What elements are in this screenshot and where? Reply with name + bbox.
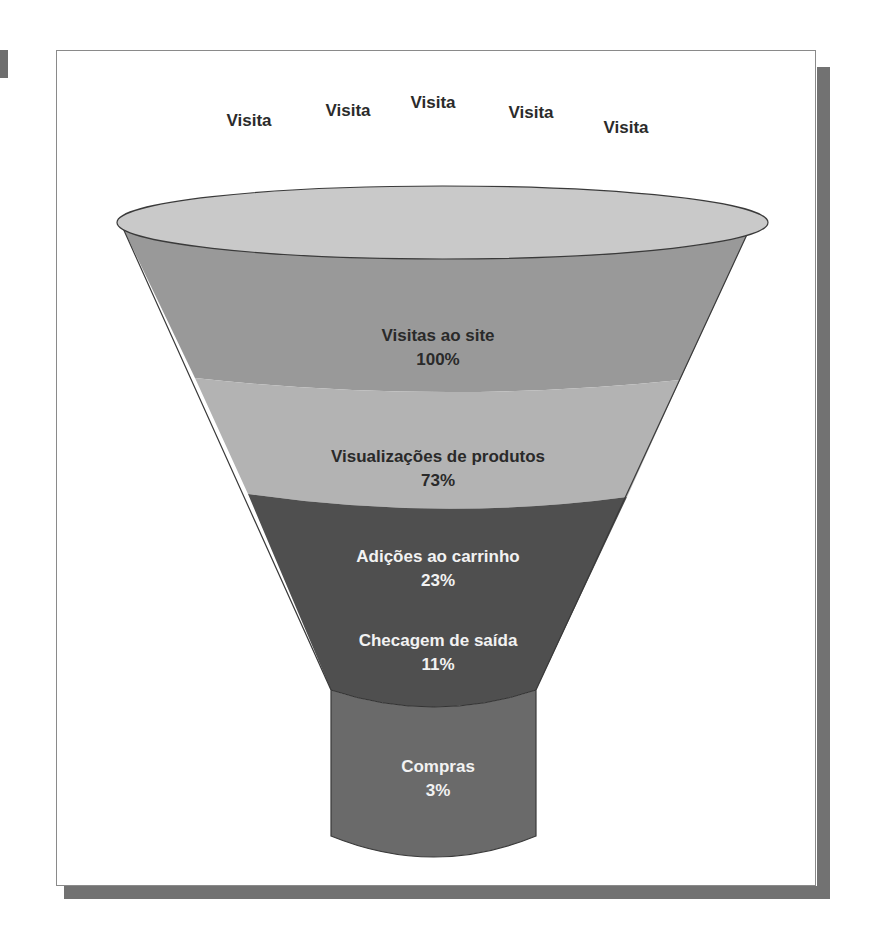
stage-value: 100%	[0, 348, 876, 372]
stage-label-product-views: Visualizações de produtos 73%	[0, 445, 876, 493]
stage-value: 73%	[0, 469, 876, 493]
funnel-top-ellipse	[117, 186, 768, 259]
visit-label: Visita	[603, 118, 648, 138]
stage-label-cart-additions: Adições ao carrinho 23%	[0, 545, 876, 593]
stage-label-site-visits: Visitas ao site 100%	[0, 324, 876, 372]
stage-name: Visualizações de produtos	[0, 445, 876, 469]
stage-value: 23%	[0, 569, 876, 593]
visit-label: Visita	[410, 93, 455, 113]
stage-name: Visitas ao site	[0, 324, 876, 348]
stage-name: Compras	[0, 755, 876, 779]
visit-label: Visita	[508, 103, 553, 123]
stage-value: 11%	[0, 653, 876, 677]
stage-name: Adições ao carrinho	[0, 545, 876, 569]
visit-label: Visita	[226, 111, 271, 131]
stage-label-purchases: Compras 3%	[0, 755, 876, 803]
stage-name: Checagem de saída	[0, 629, 876, 653]
visit-label: Visita	[325, 101, 370, 121]
stage-label-checkout: Checagem de saída 11%	[0, 629, 876, 677]
stage-value: 3%	[0, 779, 876, 803]
